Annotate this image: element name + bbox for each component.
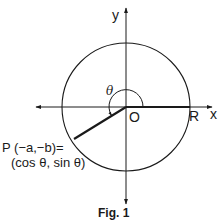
radius-op — [74, 107, 126, 139]
y-axis-label: y — [112, 7, 119, 23]
figure-caption: Fig. 1 — [98, 206, 130, 220]
unit-circle-diagram: y x O R θ P (−a,−b)= (cos θ, sin θ) Fig.… — [0, 0, 224, 221]
angle-theta-label: θ — [106, 84, 114, 98]
point-p-label-line2: (cos θ, sin θ) — [11, 155, 85, 170]
point-p-label-line1: P (−a,−b)= — [2, 140, 64, 155]
origin-label: O — [129, 109, 140, 125]
point-r-label: R — [189, 108, 199, 124]
x-axis-label: x — [210, 106, 217, 122]
